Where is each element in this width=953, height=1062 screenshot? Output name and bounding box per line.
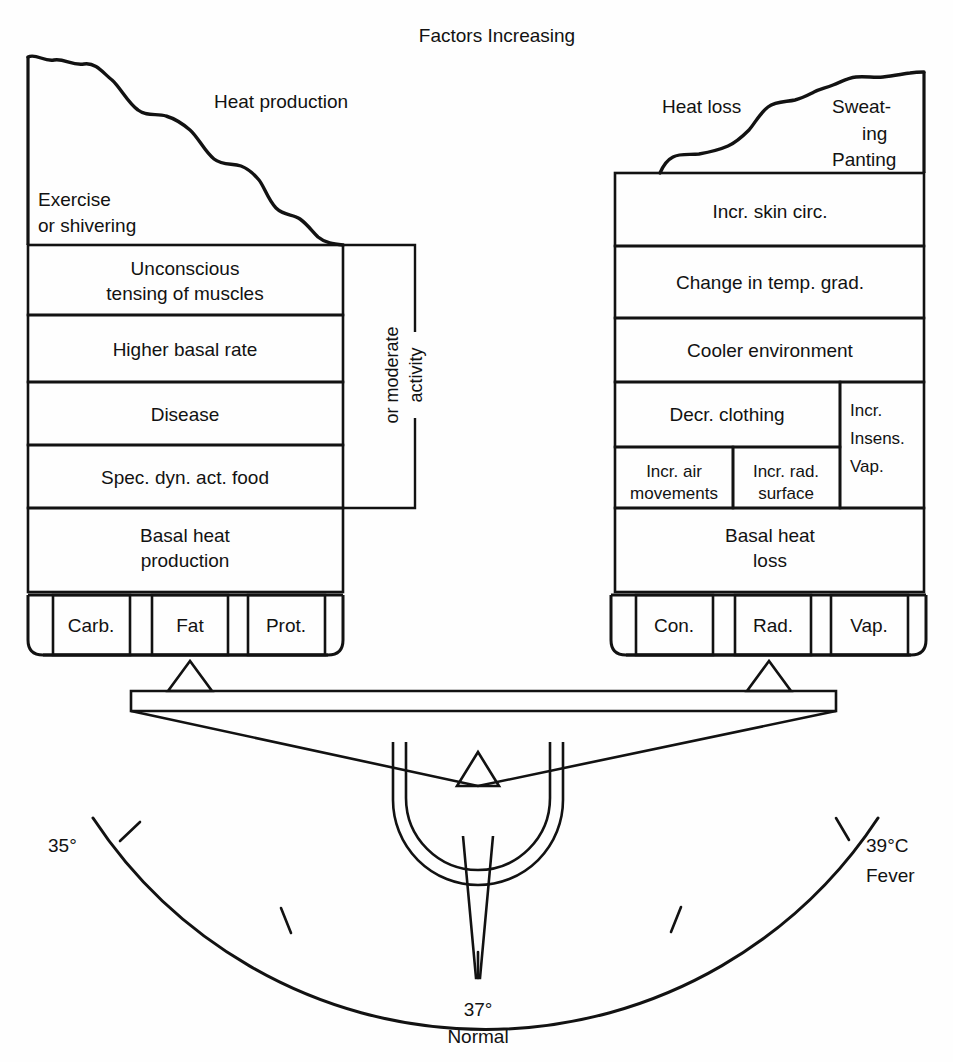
left-box-unconscious [28, 245, 343, 315]
right-box-decr-clothing-label: Decr. clothing [669, 404, 784, 425]
diagram-title: Factors Increasing [419, 25, 575, 46]
left-column-group: Heat production Exercise or shivering Un… [28, 56, 426, 691]
heat-loss-label: Heat loss [662, 96, 741, 117]
left-box-basal-line1: Basal heat [140, 525, 231, 546]
right-pan-cell-rad-label: Rad. [753, 615, 793, 636]
cradle-outer [393, 742, 563, 885]
scale-label-37: 37° [464, 999, 493, 1020]
sweating-label-line2: ing [862, 123, 887, 144]
left-box-spec-dyn-act-food-label: Spec. dyn. act. food [101, 467, 269, 488]
cradle-inner [406, 742, 550, 870]
right-box-basal-line2: loss [753, 550, 787, 571]
right-column-group: Heat loss Sweat- ing Panting Incr. skin … [611, 72, 926, 691]
scale-label-35: 35° [48, 835, 77, 856]
scale-label-fever: Fever [866, 865, 915, 886]
right-pivot-triangle [747, 661, 791, 691]
right-pan-cell-vap-label: Vap. [850, 615, 888, 636]
scale-tick-36 [281, 908, 291, 933]
left-pan-cell-carb-label: Carb. [68, 615, 114, 636]
left-box-unconscious-line1: Unconscious [131, 258, 240, 279]
temperature-scale-group: 35° 37° Normal 39°C Fever [48, 818, 915, 1047]
beam-yoke [131, 711, 836, 786]
scale-tick-38 [671, 907, 681, 932]
right-box-cooler-environment-label: Cooler environment [687, 340, 854, 361]
left-box-disease-label: Disease [151, 404, 220, 425]
right-box-insens-line2: Insens. [850, 429, 905, 448]
sweating-label-line1: Sweat- [832, 96, 891, 117]
scale-tick-39 [836, 818, 849, 840]
right-box-insens-line3: Vap. [850, 457, 884, 476]
scale-label-39c: 39°C [866, 835, 908, 856]
right-pan-cell-con-label: Con. [654, 615, 694, 636]
right-box-change-temp-grad-label: Change in temp. grad. [676, 272, 864, 293]
moderate-activity-bracket [343, 245, 415, 508]
exercise-label-line1: Exercise [38, 189, 111, 210]
moderate-activity-label-line2: activity [406, 347, 426, 402]
right-box-incr-air-line2: movements [630, 484, 718, 503]
left-pan-cell-fat-label: Fat [176, 615, 204, 636]
scale-label-normal: Normal [447, 1026, 508, 1047]
balance-beam-group [131, 691, 836, 786]
right-box-incr-rad-line2: surface [758, 484, 814, 503]
fulcrum-triangle [457, 752, 499, 786]
left-box-higher-basal-rate-label: Higher basal rate [113, 339, 258, 360]
right-box-insens-line1: Incr. [850, 401, 882, 420]
exercise-label-line2: or shivering [38, 215, 136, 236]
heat-production-label: Heat production [214, 91, 348, 112]
right-pan-group: Con. Rad. Vap. [611, 595, 926, 655]
left-pan-cell-prot-label: Prot. [266, 615, 306, 636]
left-pan-group: Carb. Fat Prot. [28, 595, 343, 655]
left-box-unconscious-line2: tensing of muscles [106, 283, 263, 304]
panting-label: Panting [832, 149, 896, 170]
moderate-activity-label-line1: or moderate [382, 326, 402, 423]
fulcrum-cradle-group [393, 742, 563, 978]
left-pivot-triangle [168, 661, 212, 691]
thermoregulation-balance-diagram: Factors Increasing Heat production Exerc… [0, 0, 953, 1062]
right-box-basal-line1: Basal heat [725, 525, 816, 546]
scale-tick-35 [120, 822, 140, 841]
left-box-basal-line2: production [141, 550, 230, 571]
right-box-incr-skin-circ-label: Incr. skin circ. [712, 201, 827, 222]
right-box-incr-air-line1: Incr. air [646, 462, 702, 481]
right-box-incr-rad-line1: Incr. rad. [753, 462, 819, 481]
balance-beam [131, 691, 836, 711]
